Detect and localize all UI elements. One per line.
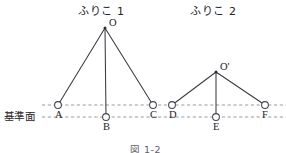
figure-caption: 図 1-2	[130, 145, 161, 153]
pendulum-2-bob-e	[213, 114, 220, 121]
pendulum-2-title: ふりこ 2	[190, 6, 237, 17]
pendulum-1-label-c: C	[150, 110, 157, 121]
pendulum-pivots	[104, 27, 218, 74]
pendulum-1-bob-c	[150, 102, 157, 109]
pendulum-2-rod-f	[216, 72, 265, 105]
reference-plane-label: 基準面	[4, 111, 35, 122]
pendulum-2-rod-d	[172, 72, 216, 105]
pendulum-2-label-e: E	[213, 122, 219, 133]
pendulum-1-rod-c	[105, 28, 153, 105]
figure-canvas	[0, 0, 286, 153]
pendulum-rods	[58, 28, 265, 117]
pendulum-1-bob-b	[103, 114, 110, 121]
reference-plane-lines	[42, 105, 286, 117]
pendulum-1-rod-b	[105, 28, 106, 117]
pendulum-2-pivot-label: O'	[220, 62, 229, 73]
pendulum-1-rod-a	[58, 28, 105, 105]
pendulum-1-bob-a	[55, 102, 62, 109]
pendulum-2-label-f: F	[262, 110, 268, 121]
pendulum-bobs	[55, 102, 269, 121]
pendulum-2-label-d: D	[169, 110, 177, 121]
pendulum-1-pivot-label: O	[109, 18, 117, 29]
pendulum-1-label-b: B	[103, 122, 110, 133]
pendulum-1-title: ふりこ 1	[78, 6, 125, 17]
pendulum-1-label-a: A	[55, 110, 63, 121]
pendulum-2-bob-f	[262, 102, 269, 109]
pendulum-1-pivot-dot	[104, 27, 107, 30]
pendulum-2-bob-d	[169, 102, 176, 109]
pendulum-2-pivot-dot	[215, 71, 218, 74]
pendulum-figure: ABCOふりこ 1DEFO'ふりこ 2 基準面 図 1-2	[0, 0, 286, 153]
